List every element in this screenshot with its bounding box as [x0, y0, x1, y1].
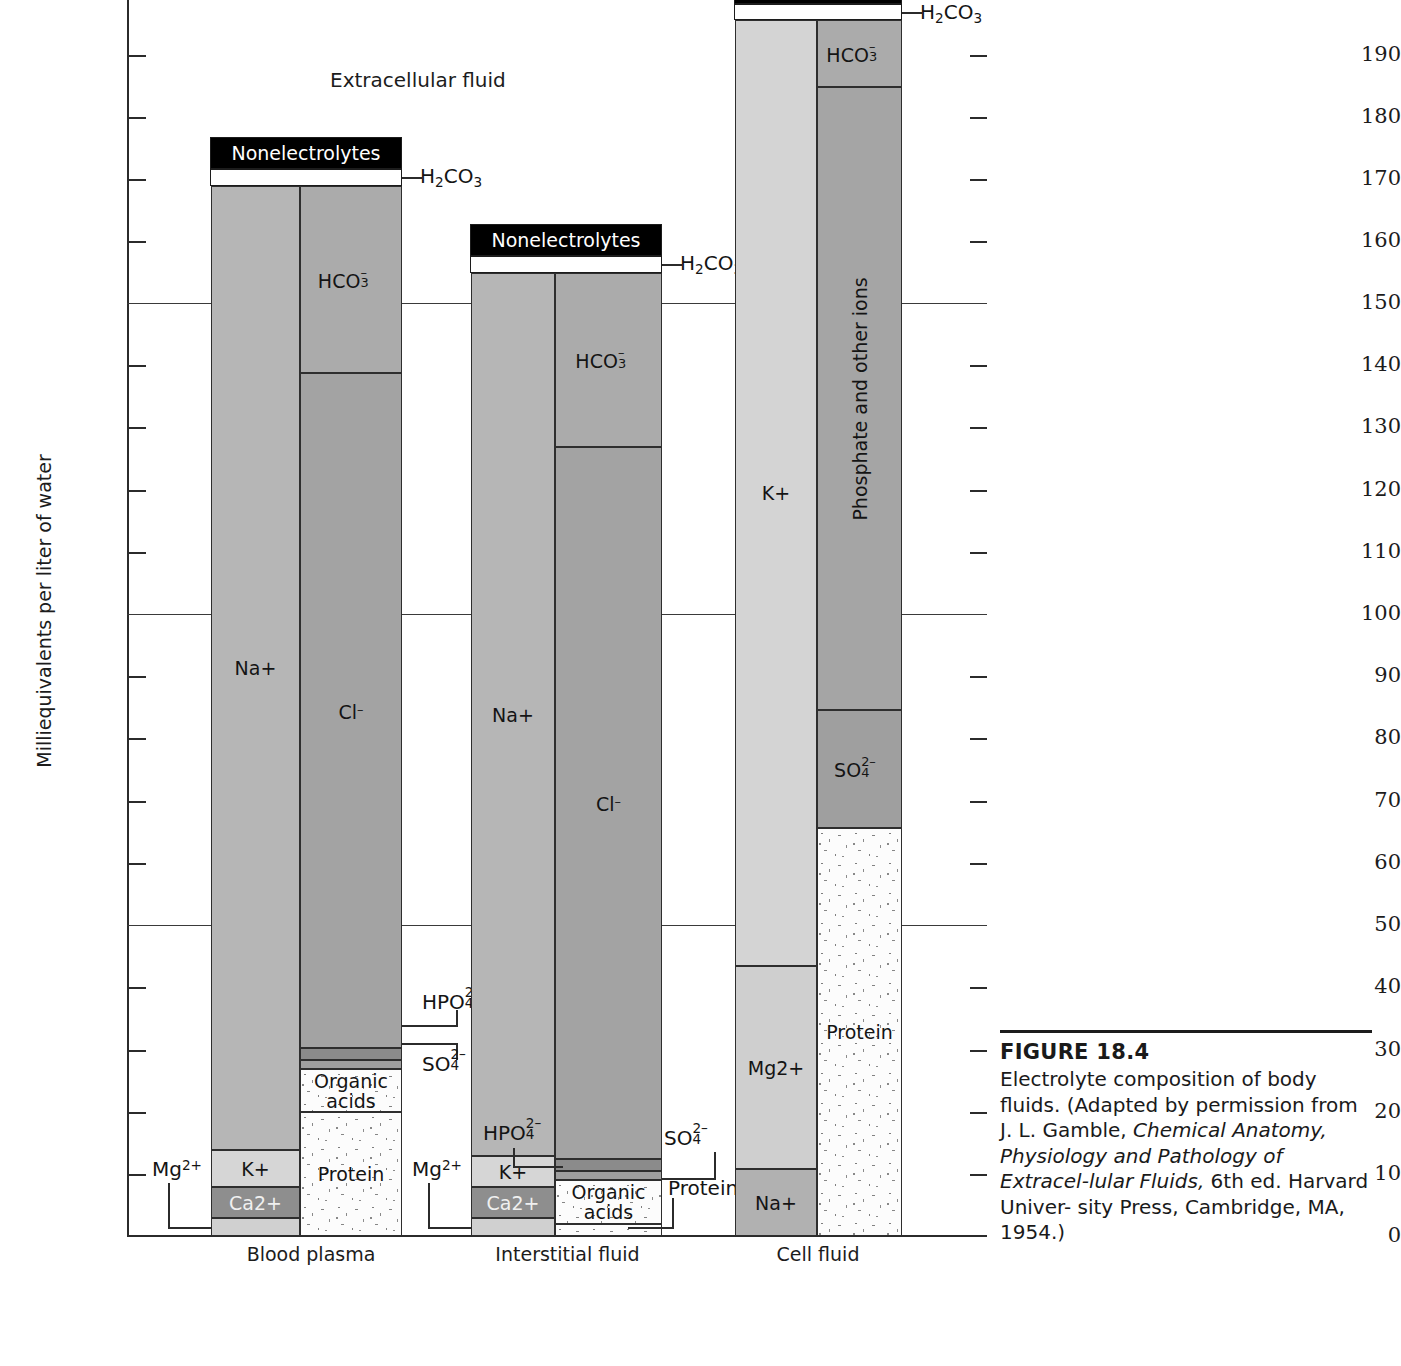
leader-h2co3-interstitial: [662, 264, 682, 266]
segment-label: Na+: [212, 658, 299, 679]
callout-mg-plasma: Mg2+: [152, 1155, 202, 1179]
figure-caption: FIGURE 18.4 Electrolyte composition of b…: [1000, 1030, 1372, 1246]
segment-protein-interstitial: [555, 1224, 662, 1236]
y-tick-right: [970, 801, 987, 803]
segment-phosphate-cell: Phosphate and other ions: [817, 87, 902, 710]
y-tick-label: 200: [1353, 0, 1401, 2]
category-label-blood-plasma: Blood plasma: [216, 1243, 406, 1265]
caption-line-3-italic: Chemical Anatomy,: [1133, 1118, 1327, 1142]
callout-h2co3-interstitial: H2CO3: [680, 253, 742, 279]
bar-cell-anions: HCO3– Phosphate and other ions SO42– Pro…: [817, 20, 902, 1236]
segment-so4-cell: SO42–: [817, 710, 902, 828]
y-tick-label: 170: [1353, 168, 1401, 189]
y-tick: [129, 676, 146, 678]
segment-label: HCO3–: [301, 268, 401, 291]
callout-mg-interstitial: Mg2+: [412, 1155, 462, 1179]
y-tick-label: 100: [1353, 603, 1401, 624]
y-tick-right: [970, 1112, 987, 1114]
y-tick: [129, 365, 146, 367]
segment-hpo4-interstitial: [555, 1159, 662, 1171]
y-tick: [129, 738, 146, 740]
y-tick-right: [970, 179, 987, 181]
segment-mg-plasma: [211, 1218, 300, 1236]
segment-label: Na+: [472, 704, 554, 725]
y-tick: [129, 1112, 146, 1114]
y-tick: [129, 490, 146, 492]
segment-mg-cell: Mg2+: [735, 966, 817, 1169]
y-tick-right: [970, 614, 987, 615]
y-tick-label: 90: [1353, 665, 1401, 686]
y-tick: [129, 427, 146, 429]
y-tick-right: [970, 55, 987, 57]
segment-hpo4-plasma: [300, 1048, 402, 1060]
y-tick-label: 190: [1353, 44, 1401, 65]
leader-mg-plasma-a: [168, 1227, 212, 1229]
segment-label: Na+: [736, 1192, 816, 1213]
bar-cell-cations: K+ Mg2+ Na+: [735, 20, 817, 1236]
caption-body: Electrolyte composition of body fluids. …: [1000, 1067, 1372, 1246]
y-tick-label: 70: [1353, 790, 1401, 811]
y-tick-right: [970, 241, 987, 243]
segment-mg-interstitial: [471, 1218, 555, 1236]
bar-plasma-anions: HCO3– Cl– Organicacids Protein: [300, 186, 402, 1236]
segment-na-interstitial: Na+: [471, 273, 555, 1156]
callout-so4-plasma: SO42–: [422, 1051, 475, 1074]
y-tick-label: 50: [1353, 914, 1401, 935]
y-tick-label: 130: [1353, 416, 1401, 437]
caption-rule: [1000, 1030, 1372, 1033]
segment-organic-acids-plasma: Organicacids: [300, 1069, 402, 1112]
y-tick-right: [970, 676, 987, 678]
y-tick-label: 110: [1353, 541, 1401, 562]
y-tick-right: [970, 427, 987, 429]
y-tick-right: [970, 925, 987, 926]
segment-label: SO42–: [818, 758, 901, 781]
segment-label: K+: [736, 483, 816, 504]
caption-line-3-plain: J. L. Gamble,: [1000, 1118, 1133, 1142]
bar-plasma-cations: Na+ K+ Ca2+: [211, 186, 300, 1236]
figure-number: FIGURE 18.4: [1000, 1040, 1372, 1064]
nonelectrolytes-label: Nonelectrolytes: [211, 142, 401, 164]
bar-interstitial-anions: HCO3– Cl– Organicacids: [555, 273, 662, 1236]
segment-ca-plasma: Ca2+: [211, 1187, 300, 1218]
segment-label: Organicacids: [556, 1182, 661, 1222]
segment-label: Phosphate and other ions: [849, 277, 871, 520]
segment-cl-interstitial: Cl–: [555, 447, 662, 1159]
callout-protein-interstitial: Protein: [668, 1178, 738, 1198]
callout-so4-interstitial: SO42–: [664, 1125, 717, 1148]
caption-line-2: fluids. (Adapted by permission from: [1000, 1093, 1358, 1117]
y-tick: [129, 241, 146, 243]
y-tick-label: 140: [1353, 354, 1401, 375]
segment-cl-plasma: Cl–: [300, 373, 402, 1048]
y-tick: [129, 801, 146, 803]
h2co3-band-cell: [734, 4, 902, 20]
segment-label: Protein: [818, 1022, 901, 1043]
segment-label: HCO3–: [556, 349, 661, 372]
leader-hpo4-interstitial-a: [513, 1166, 563, 1168]
segment-label: Ca2+: [212, 1192, 299, 1213]
y-tick-right: [970, 1174, 987, 1176]
y-tick-right: [970, 303, 987, 304]
y-tick-label: 150: [1353, 292, 1401, 313]
extracellular-fluid-label: Extracellular fluid: [330, 68, 506, 92]
h2co3-band-interstitial: [470, 256, 662, 273]
nonelectrolytes-label: Nonelectrolytes: [471, 229, 661, 251]
nonelectrolytes-band-plasma: Nonelectrolytes: [210, 137, 402, 169]
y-tick-label: 60: [1353, 852, 1401, 873]
segment-label: HCO3–: [818, 42, 901, 65]
h2co3-band-plasma: [210, 169, 402, 186]
y-tick-label: 180: [1353, 106, 1401, 127]
y-tick: [129, 863, 146, 865]
segment-label: Cl–: [301, 698, 401, 722]
y-tick-right: [970, 863, 987, 865]
segment-label: Ca2+: [472, 1192, 554, 1213]
segment-so4-plasma: [300, 1060, 402, 1069]
y-tick-right: [970, 490, 987, 492]
callout-hpo4-interstitial: HPO42–: [483, 1120, 551, 1143]
leader-hpo4-interstitial-b: [513, 1148, 515, 1168]
leader-protein-interstitial-b: [672, 1198, 674, 1229]
segment-hco3-interstitial: HCO3–: [555, 273, 662, 447]
segment-label: Organicacids: [301, 1071, 401, 1111]
y-tick: [129, 179, 146, 181]
y-tick: [129, 552, 146, 554]
category-label-interstitial-fluid: Interstitial fluid: [470, 1243, 665, 1265]
